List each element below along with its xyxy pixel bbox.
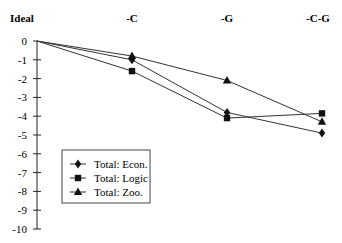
y-tick-label: -2 xyxy=(18,73,27,85)
legend-label: Total: Zoo. xyxy=(94,186,143,198)
category-label: Ideal xyxy=(10,12,34,24)
y-tick-label: -9 xyxy=(18,204,28,216)
series-triangle xyxy=(37,41,326,125)
category-label: -C xyxy=(126,12,138,24)
legend: Total: Econ.Total: LogicTotal: Zoo. xyxy=(62,150,150,203)
square-marker xyxy=(224,115,230,121)
series-lines xyxy=(37,41,326,138)
legend-label: Total: Logic xyxy=(94,172,148,184)
category-label: -G xyxy=(221,12,234,24)
y-tick-label: -8 xyxy=(18,185,28,197)
square-marker xyxy=(75,175,81,181)
y-tick-label: -10 xyxy=(12,223,27,235)
y-tick-label: -5 xyxy=(18,129,28,141)
y-tick-label: -4 xyxy=(18,110,28,122)
y-tick-label: 0 xyxy=(22,35,28,47)
y-tick-label: -3 xyxy=(18,91,28,103)
square-marker xyxy=(319,110,325,116)
y-tick-label: -7 xyxy=(18,167,28,179)
legend-label: Total: Econ. xyxy=(94,158,148,170)
line-chart: Ideal-C-G-C-G 0-1-2-3-4-5-6-7-8-9-10 Tot… xyxy=(0,0,342,243)
category-label: -C-G xyxy=(306,12,330,24)
diamond-marker xyxy=(319,129,325,138)
series-diamond xyxy=(37,41,325,138)
y-axis: 0-1-2-3-4-5-6-7-8-9-10 xyxy=(12,35,41,235)
series-square xyxy=(37,41,325,121)
square-marker xyxy=(129,68,135,74)
y-tick-label: -1 xyxy=(18,54,27,66)
y-tick-label: -6 xyxy=(18,148,28,160)
category-labels: Ideal-C-G-C-G xyxy=(10,12,330,24)
